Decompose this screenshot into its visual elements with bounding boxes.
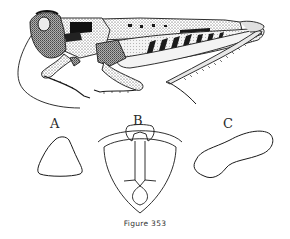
panel-label-c: C <box>223 117 233 130</box>
figure-canvas <box>0 0 290 239</box>
panel-label-b: B <box>133 114 143 127</box>
panel-a-drawing <box>38 137 82 176</box>
eye <box>38 17 50 31</box>
panel-label-a: A <box>50 117 59 130</box>
grasshopper-illustration <box>18 11 264 108</box>
pronotum-dark-patch <box>70 22 92 34</box>
panel-b-drawing <box>98 125 182 214</box>
hind-tarsus <box>168 82 196 104</box>
middle-leg-tibia <box>94 90 136 92</box>
figure-caption: Figure 353 <box>0 219 290 228</box>
front-leg-tibia <box>44 76 90 98</box>
panel-c-drawing <box>194 131 273 177</box>
